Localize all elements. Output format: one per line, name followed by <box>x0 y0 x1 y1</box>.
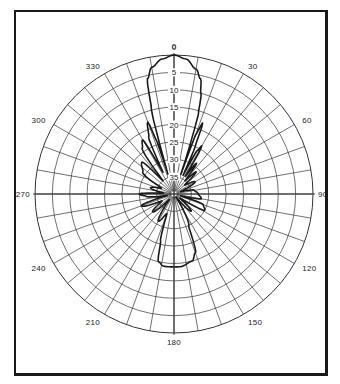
angle-tick-label: 240 <box>32 264 46 273</box>
angle-tick-label: 60 <box>302 116 312 125</box>
radial-gridline <box>176 196 263 300</box>
radial-gridline <box>177 170 311 194</box>
angle-tick-label: 270 <box>16 190 30 199</box>
ring-tick-label: 25 <box>170 138 179 147</box>
ring-tick-label: 0 <box>172 43 177 52</box>
radial-gridline <box>176 105 280 192</box>
ring-tick-label: 15 <box>170 103 179 112</box>
angle-tick-label: 300 <box>32 116 46 125</box>
ring-tick-label: 10 <box>170 86 179 95</box>
angle-tick-label: 90 <box>318 190 328 199</box>
angle-tick-label: 150 <box>248 318 262 327</box>
ring-tick-label: 35 <box>170 173 179 182</box>
radial-gridline <box>68 105 172 192</box>
angle-tick-label: 30 <box>248 62 258 71</box>
polar-grid <box>33 53 315 335</box>
radial-gridline <box>126 63 173 191</box>
angle-tick-label: 210 <box>86 318 100 327</box>
ring-tick-label: 20 <box>170 121 179 130</box>
angle-tick-label: 120 <box>302 264 316 273</box>
radial-gridline <box>176 196 280 283</box>
polar-chart: 0306090120150180210240270300330 05101520… <box>0 0 340 384</box>
radial-gridline <box>68 196 172 283</box>
angle-tick-label: 180 <box>167 338 181 347</box>
angle-tick-label: 330 <box>86 62 100 71</box>
ring-tick-label: 30 <box>170 155 179 164</box>
radial-gridline <box>175 197 222 325</box>
ring-tick-label: 5 <box>172 68 177 77</box>
radial-gridline <box>37 195 171 219</box>
radial-gridline <box>37 170 171 194</box>
radial-gridline <box>43 195 171 242</box>
